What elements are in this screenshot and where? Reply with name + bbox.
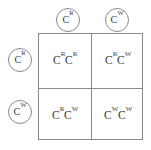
gamete-circle-top-right: CW <box>105 8 129 32</box>
genotype-top-right: CRCW <box>105 55 131 67</box>
punnett-cell-top-right: CRCW <box>92 34 144 88</box>
punnett-square-diagram: CR CW CR CW CRCR CRCW <box>0 0 151 150</box>
genotype-bottom-right: CWCW <box>104 110 132 122</box>
genotype-top-left: CRCR <box>53 55 77 67</box>
gamete-top-right-allele: CW <box>111 15 124 25</box>
punnett-cell-bottom-left: CRCW <box>39 89 91 143</box>
gamete-circle-left-bottom: CW <box>8 100 32 124</box>
punnett-cell-bottom-right: CWCW <box>92 89 144 143</box>
punnett-grid: CRCR CRCW CRCW CWCW <box>38 33 143 140</box>
punnett-cell-top-left: CRCR <box>39 34 91 88</box>
gamete-left-bottom-allele: CW <box>14 107 27 117</box>
gamete-left-top-allele: CR <box>14 55 25 65</box>
genotype-bottom-left: CRCW <box>52 110 78 122</box>
gamete-circle-top-left: CR <box>56 8 80 32</box>
gamete-top-left-allele: CR <box>62 15 73 25</box>
gamete-circle-left-top: CR <box>8 48 32 72</box>
